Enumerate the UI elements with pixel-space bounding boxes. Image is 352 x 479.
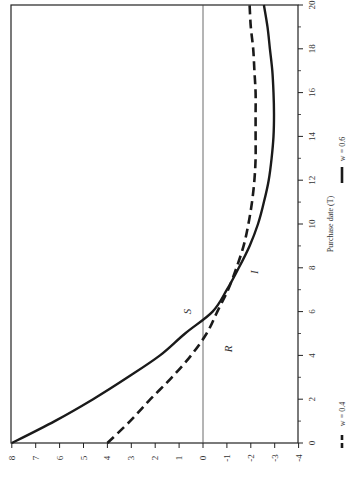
x-axis-purchase-date: 02468101214161820 — [298, 0, 317, 445]
y-tick-label: 5 — [79, 455, 89, 460]
legend-label: w = 0.6 — [338, 137, 347, 161]
y-tick-label: 8 — [7, 455, 17, 460]
y-tick-label: 6 — [55, 455, 65, 460]
x-tick-label: 20 — [307, 0, 317, 10]
y-tick-label: 0 — [198, 455, 208, 460]
series-layer — [12, 5, 274, 443]
legend: w = 0.4w = 0.6 — [338, 137, 347, 448]
x-tick-label: 0 — [307, 440, 317, 445]
x-tick-label: 14 — [307, 131, 317, 141]
annotation-s: S — [181, 308, 193, 314]
rotated-line-chart: 02468101214161820 876543210-1-2-3-4 SRI … — [0, 0, 352, 479]
y-tick-label: 7 — [31, 455, 41, 460]
annotation-i: I — [248, 269, 260, 275]
x-tick-label: 2 — [307, 397, 317, 402]
annotation-r: R — [222, 345, 234, 353]
annotations: SRI — [181, 269, 260, 353]
x-tick-label: 6 — [307, 309, 317, 314]
x-tick-label: 4 — [307, 353, 317, 358]
y-tick-label: 1 — [174, 456, 184, 461]
plot-frame — [11, 5, 298, 443]
y-tick-label: 3 — [126, 455, 136, 460]
y-tick-label: -2 — [246, 454, 256, 462]
x-tick-label: 10 — [307, 219, 317, 229]
y-tick-label: -1 — [222, 454, 232, 462]
x-tick-label: 16 — [307, 88, 317, 98]
legend-label: w = 0.4 — [338, 402, 347, 426]
x-axis-title: Purchase date (T) — [326, 195, 335, 252]
x-tick-label: 18 — [307, 44, 317, 54]
series-line-w-0-6 — [12, 5, 274, 443]
y-tick-label: -4 — [294, 454, 304, 462]
x-tick-label: 12 — [307, 176, 317, 185]
x-tick-label: 8 — [307, 265, 317, 270]
y-axis-values: 876543210-1-2-3-4 — [7, 443, 304, 462]
y-tick-label: -3 — [270, 454, 280, 462]
y-tick-label: 2 — [150, 456, 160, 461]
y-tick-label: 4 — [102, 455, 112, 460]
x-axis-title-text: Purchase date (T) — [326, 195, 335, 252]
